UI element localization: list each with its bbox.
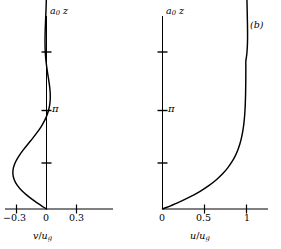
right-x-tick-label-1: 1 xyxy=(244,213,250,223)
right-x-axis-title: u/ug xyxy=(190,231,210,242)
hodograph-curve xyxy=(13,0,50,209)
left-x-tick-label-neg03: −0.3 xyxy=(3,213,26,223)
right-y-tick-label-pi: π xyxy=(168,104,175,114)
left-panel-axes xyxy=(5,16,113,214)
right-x-tick-label-zero: 0 xyxy=(159,213,165,223)
right-panel-axes xyxy=(158,16,269,214)
u-profile-curve xyxy=(163,0,248,209)
left-x-tick-label-pos03: 0.3 xyxy=(69,213,84,223)
left-x-tick-label-zero: 0 xyxy=(43,213,49,223)
panel-tag-b: (b) xyxy=(250,20,264,30)
figure-container: a0 z π −0.3 0 0.3 v/ug a0 z π 0 0.5 1 u/… xyxy=(0,0,281,249)
right-y-axis-title: a0 z xyxy=(166,6,184,17)
left-y-axis-title: a0 z xyxy=(50,6,68,17)
right-x-tick-label-05: 0.5 xyxy=(196,213,211,223)
left-x-axis-title: v/ug xyxy=(33,231,52,242)
left-y-tick-label-pi: π xyxy=(52,104,59,114)
